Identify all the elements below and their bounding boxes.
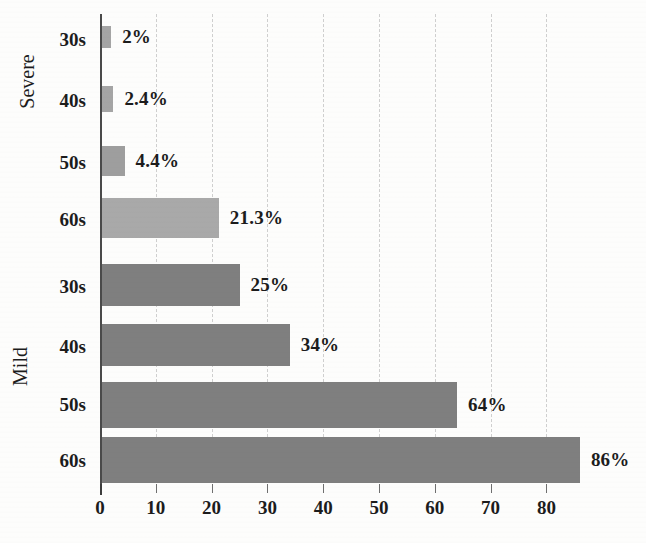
- x-tick-label-20: 20: [202, 497, 221, 519]
- bar-value-label: 64%: [468, 394, 507, 416]
- x-tick-mark-40: [323, 484, 324, 493]
- bar-row: 4.4%: [100, 146, 179, 176]
- bar-value-label: 2.4%: [124, 88, 168, 110]
- x-axis: 01020304050607080: [0, 484, 646, 543]
- group-label-mild-text: Mild: [9, 347, 32, 386]
- group-label-severe: Severe: [0, 70, 40, 93]
- group-label-mild: Mild: [0, 355, 40, 378]
- plot-area: 2%2.4%4.4%21.3%25%34%64%86%: [100, 14, 620, 482]
- gridline-80: [546, 14, 547, 482]
- bar-value-label: 86%: [591, 449, 630, 471]
- x-tick-label-40: 40: [314, 497, 333, 519]
- y-tick-mild-30s: 30s: [60, 276, 86, 298]
- bar-row: 86%: [100, 437, 629, 483]
- x-tick-mark-10: [156, 484, 157, 493]
- x-tick-label-50: 50: [370, 497, 389, 519]
- x-tick-mark-70: [491, 484, 492, 493]
- y-tick-severe-50s: 50s: [60, 152, 86, 174]
- bar-row: 34%: [100, 324, 339, 366]
- y-tick-mild-40s: 40s: [60, 336, 86, 358]
- bar-severe-60s[interactable]: [100, 198, 219, 238]
- x-tick-mark-0: [100, 484, 102, 495]
- bar-value-label: 4.4%: [136, 150, 180, 172]
- bar-value-label: 25%: [251, 274, 290, 296]
- bar-row: 2%: [100, 26, 151, 48]
- x-tick-label-70: 70: [481, 497, 500, 519]
- y-tick-mild-50s: 50s: [60, 394, 86, 416]
- bar-value-label: 34%: [301, 334, 340, 356]
- x-tick-label-30: 30: [258, 497, 277, 519]
- bar-chart: 2%2.4%4.4%21.3%25%34%64%86% 30s40s50s60s…: [0, 0, 646, 543]
- x-tick-mark-50: [379, 484, 380, 493]
- bar-row: 25%: [100, 264, 289, 306]
- bar-row: 21.3%: [100, 198, 283, 238]
- bar-severe-50s[interactable]: [100, 146, 125, 176]
- y-tick-severe-30s: 30s: [60, 29, 86, 51]
- x-tick-mark-80: [546, 484, 547, 493]
- bar-mild-40s[interactable]: [100, 324, 290, 366]
- y-axis-line: [100, 14, 102, 484]
- x-tick-mark-60: [435, 484, 436, 493]
- x-tick-label-0: 0: [95, 497, 105, 519]
- y-tick-mild-60s: 60s: [60, 450, 86, 472]
- y-tick-severe-60s: 60s: [60, 209, 86, 231]
- x-tick-mark-30: [267, 484, 268, 493]
- bar-mild-30s[interactable]: [100, 264, 240, 306]
- bar-row: 2.4%: [100, 86, 168, 112]
- x-tick-label-60: 60: [425, 497, 444, 519]
- y-tick-severe-40s: 40s: [60, 90, 86, 112]
- x-tick-label-10: 10: [146, 497, 165, 519]
- group-label-severe-text: Severe: [16, 54, 39, 108]
- bar-value-label: 21.3%: [230, 207, 283, 229]
- x-tick-mark-20: [212, 484, 213, 493]
- bar-mild-50s[interactable]: [100, 382, 457, 428]
- bar-mild-60s[interactable]: [100, 437, 580, 483]
- x-tick-label-80: 80: [537, 497, 556, 519]
- bar-value-label: 2%: [122, 26, 151, 48]
- bar-row: 64%: [100, 382, 507, 428]
- bar-severe-40s[interactable]: [100, 86, 113, 112]
